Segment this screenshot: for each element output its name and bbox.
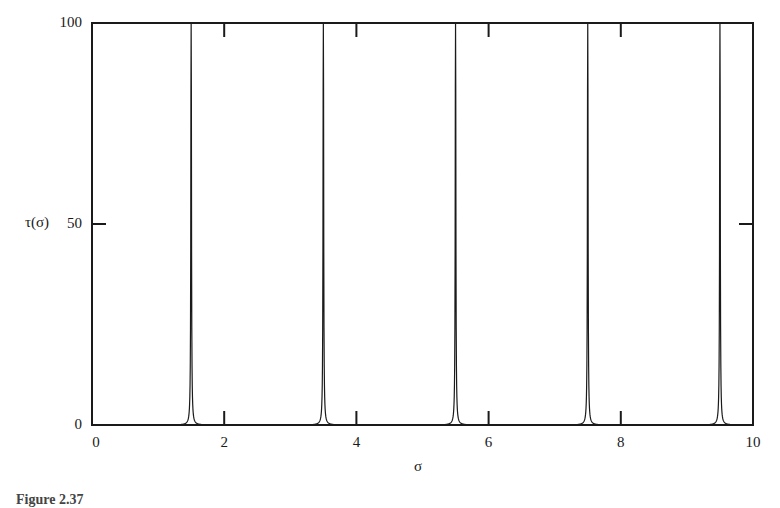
y-tick-label: 100 — [42, 15, 82, 30]
x-tick-label: 0 — [76, 435, 116, 450]
figure-caption: Figure 2.37 — [16, 492, 83, 508]
tau-curve — [92, 23, 753, 425]
x-tick-label: 8 — [601, 435, 641, 450]
y-axis-label: τ(σ) — [25, 214, 49, 231]
x-tick-label: 6 — [469, 435, 509, 450]
y-tick-label: 0 — [42, 417, 82, 432]
x-axis-label: σ — [414, 458, 422, 475]
x-tick-label: 4 — [336, 435, 376, 450]
x-tick-label: 2 — [204, 435, 244, 450]
x-tick-label: 10 — [733, 435, 773, 450]
resonance-curve — [92, 23, 753, 425]
